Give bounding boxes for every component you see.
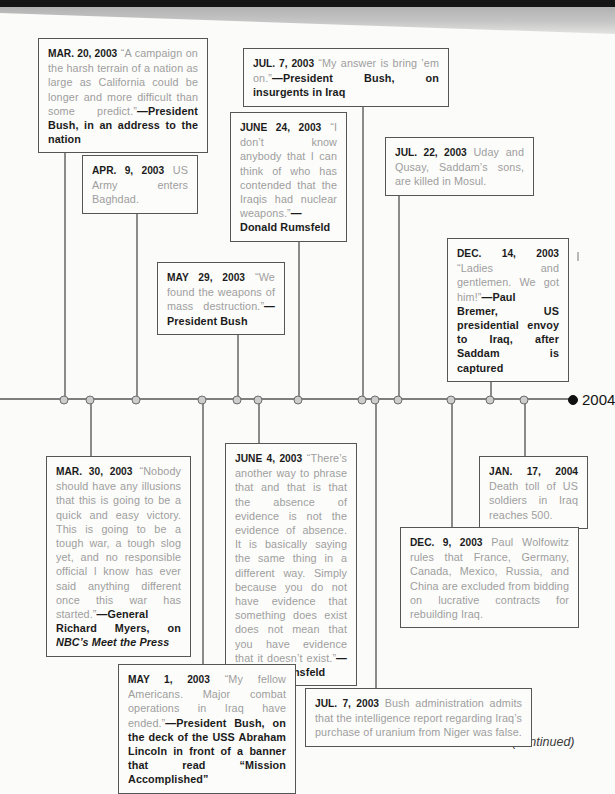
timeline-dot-may-29-2003 <box>233 396 242 405</box>
event-date: APR. 9, 2003 <box>92 165 164 176</box>
event-box-mar-30-2003: MAR. 30, 2003 “Nobody should have any il… <box>46 456 191 657</box>
timeline-dot-mar-30-2003 <box>86 396 95 405</box>
event-box-mar-20-2003: MAR. 20, 2003 “A campaign on the harsh t… <box>38 38 208 153</box>
event-text: APR. 9, 2003 US Army enters Baghdad. <box>92 163 188 207</box>
page-top-black-bar <box>0 0 615 7</box>
event-box-dec-9-2003: DEC. 9, 2003 Paul Wolfowitz rules that F… <box>400 527 579 628</box>
connector-may-1-2003 <box>202 400 204 694</box>
event-box-jul-7-2003-bring-em-on: JUL. 7, 2003 “My answer is bring ’em on.… <box>243 48 449 107</box>
event-text: JUL. 7, 2003 “My answer is bring ’em on.… <box>253 56 439 100</box>
event-attribution-italic: NBC’s Meet the Press <box>56 636 169 648</box>
event-date: MAY 1, 2003 <box>128 674 210 685</box>
event-box-may-1-2003: MAY 1, 2003 “My fellow Americans. Major … <box>118 664 296 794</box>
event-box-apr-9-2003: APR. 9, 2003 US Army enters Baghdad. <box>82 155 198 214</box>
event-text: JAN. 17, 2004 Death toll of US soldiers … <box>489 464 578 522</box>
timeline-dot-jul-7-2003-bring-em-on <box>358 396 367 405</box>
connector-jul-7-2003-bring-em-on <box>362 75 364 400</box>
event-date: JUNE 4, 2003 <box>235 453 302 464</box>
event-attribution: —Paul Bremer, US presidential envoy to I… <box>457 291 559 374</box>
year-label: 2004 <box>582 391 615 408</box>
event-box-june-4-2003: JUNE 4, 2003 “There’s another way to phr… <box>225 443 357 686</box>
event-date: JAN. 17, 2004 <box>489 466 578 477</box>
event-box-may-29-2003: MAY 29, 2003 “We found the weapons of ma… <box>157 262 285 335</box>
event-date: DEC. 9, 2003 <box>410 537 483 548</box>
event-text: MAY 1, 2003 “My fellow Americans. Major … <box>128 672 286 787</box>
event-box-dec-14-2003: DEC. 14, 2003 “Ladies and gentlemen. We … <box>447 238 569 382</box>
event-box-june-24-2003: JUNE 24, 2003 “I don’t know anybody that… <box>230 112 347 242</box>
timeline-dot-mar-20-2003 <box>60 396 69 405</box>
event-box-jul-7-2003-niger: JUL. 7, 2003 Bush administration admits … <box>305 688 532 747</box>
connector-jul-22-2003 <box>398 165 400 400</box>
event-text: MAY 29, 2003 “We found the weapons of ma… <box>167 270 275 328</box>
scan-artifact-mark <box>577 252 579 261</box>
event-box-jul-22-2003: JUL. 22, 2003 Uday and Qusay, Saddam’s s… <box>385 137 534 196</box>
timeline-dot-may-1-2003 <box>198 396 207 405</box>
event-text: MAR. 20, 2003 “A campaign on the harsh t… <box>48 46 198 146</box>
page-top-shadow-band <box>0 7 615 34</box>
timeline-dot-dec-14-2003 <box>486 396 495 405</box>
event-date: JUNE 24, 2003 <box>240 122 321 133</box>
event-date: MAY 29, 2003 <box>167 272 245 283</box>
event-box-jan-17-2004: JAN. 17, 2004 Death toll of US soldiers … <box>479 456 588 529</box>
event-date: MAR. 20, 2003 <box>48 48 117 59</box>
event-text: JUNE 24, 2003 “I don’t know anybody that… <box>240 120 337 235</box>
event-text: JUL. 7, 2003 Bush administration admits … <box>315 696 522 740</box>
event-quote: “Nobody should have any illusions that t… <box>56 465 181 620</box>
event-text: DEC. 9, 2003 Paul Wolfowitz rules that F… <box>410 535 569 621</box>
timeline-dot-june-4-2003 <box>254 396 263 405</box>
timeline-dot-jan-17-2004 <box>520 396 529 405</box>
event-date: JUL. 22, 2003 <box>395 147 467 158</box>
event-attribution: —President Bush, on insurgents in Iraq <box>253 72 439 98</box>
event-date: MAR. 30, 2003 <box>56 466 132 477</box>
timeline-dot-jul-7-2003-niger <box>371 396 380 405</box>
timeline-dot-dec-9-2003 <box>447 396 456 405</box>
timeline-dot-apr-9-2003 <box>132 396 141 405</box>
event-text: MAR. 30, 2003 “Nobody should have any il… <box>56 464 181 650</box>
event-date: JUL. 7, 2003 <box>315 698 379 709</box>
event-text: JUL. 22, 2003 Uday and Qusay, Saddam’s s… <box>395 145 524 189</box>
event-date: JUL. 7, 2003 <box>253 58 314 69</box>
event-text: JUNE 4, 2003 “There’s another way to phr… <box>235 451 347 679</box>
event-description: Death toll of US soldiers in Iraq reache… <box>489 480 578 520</box>
timeline-dot-june-24-2003 <box>294 396 303 405</box>
event-quote: “I don’t know anybody that I can think o… <box>240 121 337 219</box>
event-description: Paul Wolfowitz rules that France, German… <box>410 536 569 620</box>
event-date: DEC. 14, 2003 <box>457 248 559 259</box>
event-quote: “There’s another way to phrase that and … <box>235 452 347 664</box>
timeline-dot-jul-22-2003 <box>394 396 403 405</box>
event-text: DEC. 14, 2003 “Ladies and gentlemen. We … <box>457 246 559 375</box>
timeline-end-dot-2004 <box>568 395 578 405</box>
connector-jul-7-2003-niger <box>375 400 377 718</box>
